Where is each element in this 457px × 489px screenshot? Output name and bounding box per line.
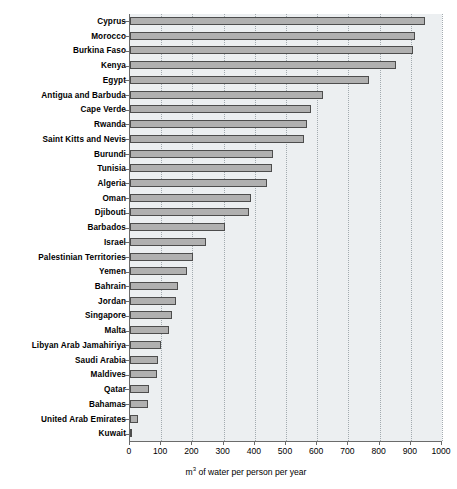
bar-row [130,205,442,220]
x-tick-mark [316,441,317,445]
bar [130,46,413,54]
y-tick-label: Egypt [0,73,126,88]
bar-row [130,412,442,427]
bar [130,415,138,423]
bar [130,135,304,143]
bar [130,164,272,172]
bar [130,91,323,99]
x-tick-mark [410,441,411,445]
bar [130,17,425,25]
bar-row [130,308,442,323]
bar [130,326,169,334]
bar [130,32,415,40]
y-tick-label: Palestinian Territories [0,250,126,265]
bar-row [130,191,442,206]
bar [130,179,267,187]
x-tick-mark [285,441,286,445]
y-tick-label: Cyprus [0,14,126,29]
y-tick-label: Libyan Arab Jamahiriya [0,338,126,353]
bar [130,76,369,84]
bar-row [130,367,442,382]
y-axis-category-labels: CyprusMoroccoBurkina FasoKenyaEgyptAntig… [0,14,126,441]
y-tick-label: Malta [0,323,126,338]
y-tick-label: Yemen [0,264,126,279]
bar [130,370,157,378]
x-axis-title: m3 of water per person per year [0,466,457,477]
bar-row [130,132,442,147]
y-tick-label: Saudi Arabia [0,353,126,368]
x-tick-label: 300 [215,446,229,456]
y-tick-label: Tunisia [0,161,126,176]
x-tick-label: 600 [309,446,323,456]
y-tick-label: Jordan [0,294,126,309]
bar-row [130,102,442,117]
bar-row [130,382,442,397]
bar [130,223,225,231]
y-tick-label: Barbados [0,220,126,235]
bar-row [130,117,442,132]
y-tick-label: Qatar [0,382,126,397]
bar-row [130,264,442,279]
bar [130,150,273,158]
x-tick-mark [441,441,442,445]
bar-row [130,58,442,73]
bar-row [130,161,442,176]
bar-row [130,235,442,250]
bar [130,208,249,216]
bar [130,194,251,202]
gridline-1000 [442,14,443,441]
bar-row [130,43,442,58]
bar [130,253,193,261]
bar-row [130,426,442,441]
bar [130,282,178,290]
x-tick-label: 700 [340,446,354,456]
y-tick-label: Bahrain [0,279,126,294]
bar [130,238,206,246]
y-tick-label: Antigua and Barbuda [0,88,126,103]
x-tick-label: 0 [127,446,132,456]
bar-row [130,353,442,368]
bar-series [130,14,442,441]
y-tick-label: Israel [0,235,126,250]
bar-row [130,323,442,338]
x-axis: 01002003004005006007008009001000 [129,441,441,461]
y-tick-label: Morocco [0,29,126,44]
bar-row [130,250,442,265]
bar-row [130,279,442,294]
bar [130,61,396,69]
y-tick-label: Cape Verde [0,102,126,117]
y-tick-label: Burundi [0,147,126,162]
y-tick-label: Kenya [0,58,126,73]
bar-row [130,220,442,235]
x-tick-mark [191,441,192,445]
y-tick-label: Djibouti [0,205,126,220]
bar [130,400,148,408]
bar-row [130,397,442,412]
x-tick-mark [379,441,380,445]
bar [130,356,158,364]
y-tick-label: Rwanda [0,117,126,132]
y-tick-label: Saint Kitts and Nevis [0,132,126,147]
y-tick-label: Kuwait [0,426,126,441]
y-tick-label: Oman [0,191,126,206]
y-tick-label: Singapore [0,308,126,323]
bar [130,297,176,305]
bar-row [130,147,442,162]
chart-figure: CyprusMoroccoBurkina FasoKenyaEgyptAntig… [0,0,457,489]
bar-row [130,29,442,44]
bar [130,385,149,393]
y-tick-label: Bahamas [0,397,126,412]
x-tick-mark [254,441,255,445]
bar [130,429,132,437]
x-tick-mark [160,441,161,445]
y-tick-label: Maldives [0,367,126,382]
x-tick-label: 500 [278,446,292,456]
bar-row [130,294,442,309]
x-tick-label: 1000 [431,446,450,456]
bar-row [130,73,442,88]
x-tick-mark [129,441,130,445]
bar-row [130,176,442,191]
x-tick-label: 400 [247,446,261,456]
bar [130,341,161,349]
bar [130,267,187,275]
